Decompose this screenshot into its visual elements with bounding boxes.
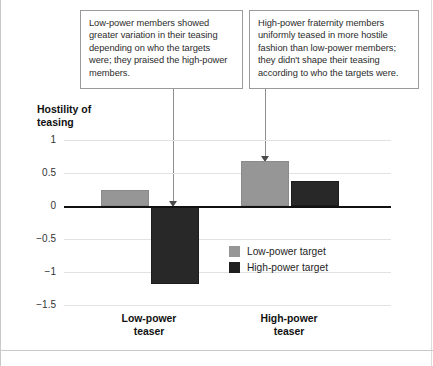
gridline-neg-0-5 xyxy=(64,239,391,240)
y-axis-title-line-1: Hostility of xyxy=(37,103,147,116)
gridline-neg-1-5 xyxy=(64,305,391,306)
x-axis-label-high-power-teaser: High-power teaser xyxy=(229,312,349,338)
y-tick-label-neg-1: −1 xyxy=(10,266,56,277)
plot-area: 1 0.5 0 −0.5 −1 −1.5 xyxy=(64,140,391,306)
x-axis-label-low-power-teaser-line-2: teaser xyxy=(89,325,209,338)
y-tick-label-neg-1-5: −1.5 xyxy=(10,299,56,310)
legend-swatch-icon-high-power-target xyxy=(229,262,240,273)
figure-bottom-rule xyxy=(1,350,433,351)
legend-item-high-power-target: High-power target xyxy=(229,260,328,275)
y-tick-label-1: 1 xyxy=(10,134,56,145)
x-axis-label-high-power-teaser-line-1: High-power xyxy=(229,312,349,325)
x-axis-label-high-power-teaser-line-2: teaser xyxy=(229,325,349,338)
annotation-callout-low-power: Low-power members showed greater variati… xyxy=(80,10,243,89)
bar-low-power-teaser-low-power-target[interactable] xyxy=(101,190,149,207)
gridline-0-5 xyxy=(64,173,391,174)
bar-high-power-teaser-high-power-target[interactable] xyxy=(291,181,339,206)
annotation-callout-high-power: High-power fraternity members uniformly … xyxy=(249,10,419,89)
gridline-1 xyxy=(64,140,391,141)
legend: Low-power target High-power target xyxy=(229,244,328,276)
legend-label-high-power-target: High-power target xyxy=(247,262,328,273)
y-tick-label-neg-0-5: −0.5 xyxy=(10,233,56,244)
legend-item-low-power-target: Low-power target xyxy=(229,244,328,259)
zero-axis-line xyxy=(64,206,391,208)
x-axis-label-low-power-teaser-line-1: Low-power xyxy=(89,312,209,325)
y-axis-title-line-2: teasing xyxy=(37,116,147,129)
y-axis-title: Hostility of teasing xyxy=(37,103,147,129)
legend-swatch-icon-low-power-target xyxy=(229,246,240,257)
bar-high-power-teaser-low-power-target[interactable] xyxy=(241,161,289,206)
y-tick-label-0-5: 0.5 xyxy=(10,167,56,178)
x-axis-label-low-power-teaser: Low-power teaser xyxy=(89,312,209,338)
gridline-neg-1 xyxy=(64,272,391,273)
y-tick-label-0: 0 xyxy=(10,200,56,211)
legend-label-low-power-target: Low-power target xyxy=(247,246,326,257)
bar-low-power-teaser-high-power-target[interactable] xyxy=(151,206,199,284)
